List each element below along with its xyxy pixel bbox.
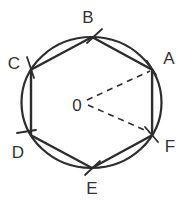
center-label: 0 bbox=[72, 96, 81, 115]
circumscribed-circle bbox=[22, 37, 162, 168]
vertex-label-e: E bbox=[86, 179, 97, 198]
vertex-label-f: F bbox=[165, 137, 175, 156]
hexagon-in-circle-figure: B A F E D C 0 bbox=[0, 0, 186, 202]
radius-of-dashed-line bbox=[88, 105, 149, 132]
tick-mark-d bbox=[17, 130, 36, 133]
geometry-diagram: B A F E D C 0 bbox=[0, 0, 186, 202]
vertex-label-b: B bbox=[82, 8, 93, 27]
vertex-label-d: D bbox=[12, 143, 24, 162]
vertex-label-a: A bbox=[163, 49, 175, 68]
inscribed-hexagon bbox=[31, 37, 152, 168]
vertex-label-c: C bbox=[8, 54, 20, 73]
radius-oa-dashed-line bbox=[87, 71, 150, 100]
